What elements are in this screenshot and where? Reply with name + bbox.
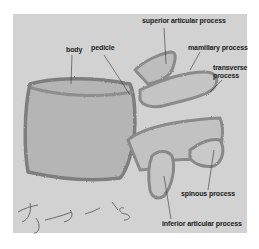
label-spinous-process: spinous process [181,190,235,198]
label-mamillary-process: mamillary process [188,44,248,52]
leader-mamillary [190,52,200,70]
inferior-articular-process-shape [149,152,174,199]
figure-canvas: superior articular process body pedicle … [0,0,259,249]
label-inferior-articular-process: inferior articular process [162,220,242,228]
label-transverse-process-line2: process [213,72,239,80]
label-superior-articular-process: superior articular process [142,17,226,25]
signature-scribble [18,202,130,233]
label-pedicle: pedicle [91,44,114,52]
label-body: body [66,46,82,54]
label-transverse-process-line1: transverse [213,64,247,72]
vertebra-drawing [0,0,259,249]
